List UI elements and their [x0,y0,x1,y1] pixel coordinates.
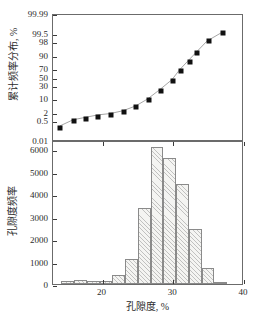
x-tick-inner [173,142,174,146]
x-tick-label: 40 [239,288,248,297]
y-tick [53,100,57,101]
y-tick [53,196,57,197]
y-tick [53,114,57,115]
data-point-marker [71,119,76,124]
data-point-marker [179,68,184,73]
y-tick [53,264,57,265]
data-point-marker [134,105,139,110]
y-tick [53,57,57,58]
data-point-marker [58,125,63,130]
y-tick-label: 6000 [30,146,48,155]
data-point-marker [206,39,211,44]
histogram-bar [125,259,138,284]
histogram-bar [61,281,74,284]
histogram-bar [151,147,164,284]
y-tick [53,15,57,16]
histogram-bar [112,275,125,284]
y-tick [53,122,57,123]
histogram-bar [189,229,202,284]
y-tick [53,286,57,287]
y-tick-label: 0 [44,281,49,290]
porosity-distribution-figure: 99.9999.598907050301020.50.01 累计频率分布, % … [0,0,258,321]
data-point-marker [220,31,225,36]
cumulative-frequency-line [53,15,242,140]
y-tick [53,219,57,220]
y-tick-label: 30 [39,82,48,91]
histogram-bar [214,282,227,284]
y-tick-label: 0.5 [37,117,48,126]
histogram-axis-title: 孔隙度频率 [8,180,18,242]
y-tick-label: 5000 [30,168,48,177]
y-tick-label: 1000 [30,258,48,267]
histogram-bar [163,158,176,284]
data-point-marker [84,116,89,121]
y-tick-label: 4000 [30,191,48,200]
y-tick-label: 3000 [30,213,48,222]
data-point-marker [171,78,176,83]
data-point-marker [159,88,164,93]
data-point-marker [109,113,114,118]
y-tick-label: 99.99 [28,10,48,19]
data-point-marker [96,114,101,119]
data-point-marker [187,59,192,64]
x-tick-inner [103,142,104,146]
y-tick [53,43,57,44]
y-tick [53,70,57,71]
y-tick [53,35,57,36]
x-tick-label: 20 [97,288,106,297]
porosity-histogram-plot [52,141,243,285]
histogram-bar [87,281,100,284]
porosity-x-axis-title: 孔隙度, % [52,301,243,312]
y-tick-label: 10 [39,95,48,104]
y-tick [53,87,57,88]
y-tick [53,151,57,152]
y-tick-label: 98 [39,38,48,47]
histogram-bar [176,184,189,284]
data-point-marker [195,51,200,56]
cumulative-frequency-axis-title: 累计频率分布, % [9,29,19,101]
x-tick [103,280,104,284]
histogram-bar [202,268,215,284]
y-tick [53,79,57,80]
y-tick [53,174,57,175]
histogram-x-tick-labels: 203040 [52,288,243,300]
x-tick [173,280,174,284]
histogram-bar [138,208,151,284]
histogram-bar [74,280,87,284]
y-tick [53,241,57,242]
x-tick-inner [244,142,245,146]
x-tick-label: 30 [168,288,177,297]
data-point-marker [146,98,151,103]
y-tick-label: 2000 [30,236,48,245]
y-tick-label: 90 [39,51,48,60]
data-point-marker [121,110,126,115]
cumulative-frequency-plot [52,14,243,141]
x-tick [244,280,245,284]
